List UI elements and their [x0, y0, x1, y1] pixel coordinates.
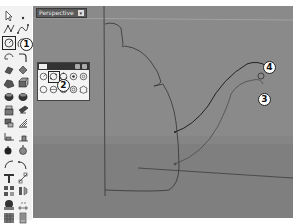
- circle-around-curve-icon[interactable]: [39, 85, 48, 94]
- properties-icon[interactable]: [17, 212, 29, 224]
- flyout-tab[interactable]: [39, 64, 47, 69]
- boolean-difference-icon[interactable]: [17, 104, 29, 116]
- curve-from-object-icon[interactable]: [3, 158, 15, 170]
- select-arrow-icon[interactable]: [3, 10, 15, 22]
- flyout-titlebar[interactable]: [38, 63, 89, 70]
- polyline-icon[interactable]: [3, 23, 15, 35]
- transform-icon[interactable]: [17, 172, 29, 184]
- mirror-icon[interactable]: [17, 185, 29, 197]
- render-icon[interactable]: [3, 199, 15, 211]
- blend-icon[interactable]: [3, 144, 15, 156]
- sweep-icon[interactable]: [17, 117, 29, 129]
- viewport-dropdown-arrow-icon[interactable]: ▾: [78, 10, 84, 16]
- extrude-icon[interactable]: [17, 77, 29, 89]
- sphere-icon[interactable]: [17, 90, 29, 102]
- callout-3: 3: [258, 93, 271, 106]
- circle-tangent-tangent-radius-icon[interactable]: [69, 85, 78, 94]
- circle-tangent-icon[interactable]: [69, 72, 78, 81]
- polygon-icon[interactable]: [17, 64, 29, 76]
- fillet-curves-icon[interactable]: [17, 51, 29, 63]
- offset-icon[interactable]: [17, 144, 29, 156]
- ellipse-icon[interactable]: [3, 51, 15, 63]
- callout-1: 1: [20, 38, 33, 51]
- viewport-title-label: Perspective: [39, 9, 74, 17]
- loft-icon[interactable]: [3, 117, 15, 129]
- point-icon[interactable]: [17, 10, 29, 22]
- perspective-viewport[interactable]: Perspective ▾: [33, 6, 293, 218]
- circle-deformable-icon[interactable]: [79, 85, 88, 94]
- flyout-options-icon[interactable]: [75, 64, 80, 69]
- callout-2: 2: [57, 79, 70, 92]
- text-icon[interactable]: [3, 172, 15, 184]
- circle-tangent-3-icon[interactable]: [79, 72, 88, 81]
- rectangle-icon[interactable]: [3, 64, 15, 76]
- project-curve-icon[interactable]: [17, 158, 29, 170]
- circle-2-point-icon[interactable]: [49, 72, 58, 81]
- curve-icon[interactable]: [17, 23, 29, 35]
- circle-center-radius-icon[interactable]: [39, 72, 48, 81]
- callout-4: 4: [263, 61, 276, 74]
- mesh-icon[interactable]: [3, 212, 15, 224]
- boolean-union-icon[interactable]: [3, 104, 15, 116]
- surface-icon[interactable]: [3, 77, 15, 89]
- box-icon[interactable]: [3, 90, 15, 102]
- flyout-close-icon[interactable]: [82, 64, 87, 69]
- shell-icon[interactable]: [17, 131, 29, 143]
- circle-icon[interactable]: [3, 37, 15, 49]
- scene-canvas[interactable]: [33, 6, 293, 218]
- array-icon[interactable]: [3, 185, 15, 197]
- fillet-edge-icon[interactable]: [3, 131, 15, 143]
- dimension-icon[interactable]: [17, 199, 29, 211]
- viewport-title-tab[interactable]: Perspective ▾: [36, 8, 87, 18]
